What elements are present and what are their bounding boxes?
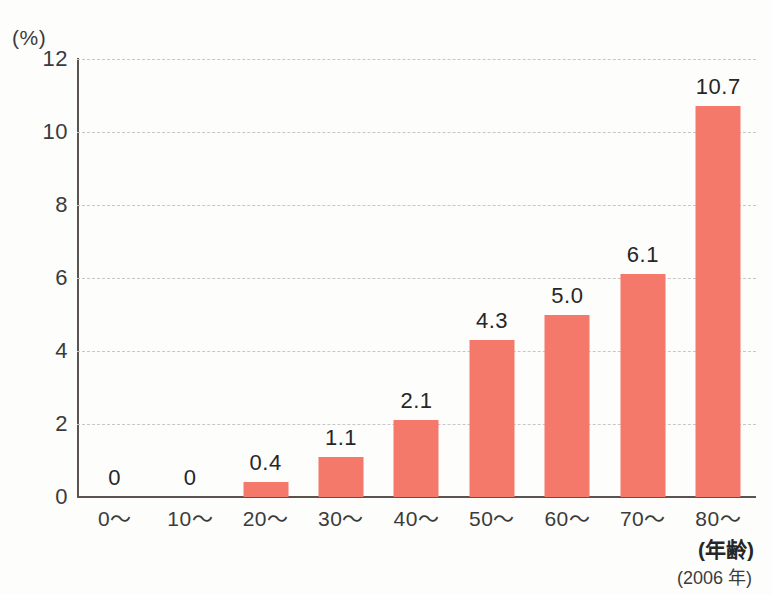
x-axis-tick-label: 60〜 [530,502,605,532]
bar-group: 5.0 [530,59,605,497]
x-axis-tick-label: 10〜 [152,502,227,532]
bar-value-label: 0 [108,465,121,491]
bar-value-label: 2.1 [400,388,432,414]
chart-page: (%) 024681012 000.41.12.14.35.06.110.7 0… [0,0,772,595]
y-axis-tick-label: 0 [8,484,68,510]
y-axis-tick-label: 12 [8,46,68,72]
bar-value-label: 4.3 [476,308,508,334]
bar [696,106,741,497]
bar-group: 6.1 [605,59,680,497]
bar [243,482,288,497]
y-axis-tick-label: 6 [8,265,68,291]
y-axis-tick-label: 4 [8,338,68,364]
bar [394,420,439,497]
bar-series: 000.41.12.14.35.06.110.7 [77,59,756,497]
bar-value-label: 6.1 [627,242,659,268]
bar-group: 0 [152,59,227,497]
bar-value-label: 1.1 [325,425,357,451]
bar [469,340,514,497]
bar-group: 0.4 [228,59,303,497]
bar-value-label: 0 [184,465,197,491]
x-axis-tick-label: 70〜 [605,502,680,532]
bar-group: 1.1 [303,59,378,497]
bar-group: 2.1 [379,59,454,497]
bar-value-label: 5.0 [551,283,583,309]
bar-group: 0 [77,59,152,497]
bar [620,274,665,497]
y-axis-tick-label: 8 [8,192,68,218]
x-axis-tick-label: 50〜 [454,502,529,532]
x-axis-tick-label: 40〜 [379,502,454,532]
bar [545,315,590,498]
x-axis-tick-label: 30〜 [303,502,378,532]
bar-value-label: 0.4 [250,450,282,476]
y-axis-tick-label: 2 [8,411,68,437]
x-axis-tick-label: 0〜 [77,502,152,532]
x-axis-ticks: 0〜10〜20〜30〜40〜50〜60〜70〜80〜 [77,502,756,536]
x-axis-tick-label: 80〜 [681,502,756,532]
bar-group: 10.7 [681,59,756,497]
bar-value-label: 10.7 [696,74,741,100]
bar-group: 4.3 [454,59,529,497]
x-axis-annotation: (年齢) [698,533,754,563]
y-axis-tick-label: 10 [8,119,68,145]
year-annotation: (2006 年) [677,563,752,589]
bar [319,457,364,497]
x-axis-tick-label: 20〜 [228,502,303,532]
